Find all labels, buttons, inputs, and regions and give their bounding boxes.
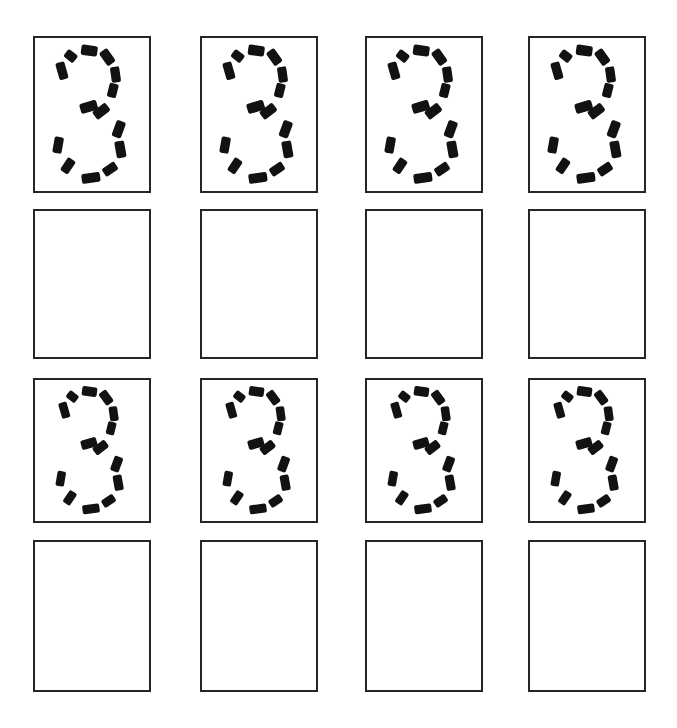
trace-dash-lower-right-a (443, 120, 458, 139)
trace-dash-lower-left-b (62, 490, 77, 506)
trace-dash-upper-right-arc (605, 66, 616, 83)
trace-dash-lower-right-a (111, 120, 126, 139)
trace-dash-bottom-right (268, 494, 284, 509)
trace-dash-upper-right-arc (275, 406, 286, 422)
practice-box-r3-c3[interactable] (365, 378, 483, 523)
practice-box-r1-c3[interactable] (365, 36, 483, 193)
trace-dash-waist-left (411, 99, 431, 114)
trace-dash-upper-left-arc (550, 61, 564, 80)
trace-dash-waist-left (574, 99, 594, 114)
trace-dash-lower-left-b (229, 490, 244, 506)
trace-dash-lower-left-b (227, 157, 243, 175)
trace-dash-bottom-right (433, 494, 449, 509)
practice-box-r3-c2[interactable] (200, 378, 318, 523)
trace-dash-lower-left-b (555, 157, 571, 175)
trace-dash-waist-right (424, 439, 441, 455)
trace-dash-lower-right-a (442, 455, 456, 473)
trace-dash-upper-left-arc (55, 61, 69, 80)
practice-box-r4-c3[interactable] (365, 540, 483, 692)
trace-dash-top-left-tip (395, 49, 410, 64)
practice-box-r3-c1[interactable] (33, 378, 151, 523)
traced-numeral-svg (202, 380, 316, 521)
practice-box-r2-c1[interactable] (33, 209, 151, 359)
trace-dash-top-left-tip (65, 390, 79, 404)
trace-dash-upper-left-arc (222, 61, 236, 80)
traced-numeral-3 (367, 38, 481, 191)
practice-box-r2-c4[interactable] (528, 209, 646, 359)
traced-numeral-3 (530, 380, 644, 521)
trace-dash-lower-right-b (281, 140, 294, 158)
trace-dash-top-left-tip (63, 49, 78, 64)
trace-dash-lower-left-a (387, 471, 398, 487)
trace-dash-waist-left (247, 437, 265, 451)
trace-dash-mid-right (274, 82, 286, 98)
trace-dash-waist-left (79, 99, 99, 114)
trace-dash-top-right (98, 389, 114, 406)
trace-dash-bottom-center (577, 503, 595, 514)
traced-numeral-svg (35, 38, 149, 191)
practice-box-r4-c2[interactable] (200, 540, 318, 692)
trace-dash-bottom-right (101, 161, 118, 177)
trace-dash-top-center (80, 44, 98, 57)
trace-dash-waist-right (587, 102, 606, 120)
traced-numeral-3 (35, 38, 149, 191)
trace-dash-lower-right-b (444, 474, 456, 491)
trace-dash-waist-right (92, 102, 111, 120)
traced-numeral-svg (530, 380, 644, 521)
trace-dash-lower-right-b (279, 474, 291, 491)
trace-dash-upper-right-arc (108, 406, 119, 422)
traced-numeral-3 (367, 380, 481, 521)
trace-dash-lower-right-a (277, 455, 291, 473)
trace-dash-top-right (265, 389, 281, 406)
trace-dash-upper-left-arc (553, 401, 566, 419)
trace-dash-upper-left-arc (58, 401, 71, 419)
trace-dash-lower-left-b (392, 157, 408, 175)
trace-dash-lower-right-b (607, 474, 619, 491)
trace-dash-bottom-right (596, 494, 612, 509)
trace-dash-lower-left-a (219, 136, 231, 154)
trace-dash-waist-left (575, 437, 593, 451)
trace-dash-bottom-center (81, 172, 101, 184)
traced-numeral-svg (35, 380, 149, 521)
trace-dash-lower-left-b (60, 157, 76, 175)
trace-dash-top-center (412, 44, 430, 57)
traced-numeral-3 (202, 38, 316, 191)
practice-box-r3-c4[interactable] (528, 378, 646, 523)
tracing-worksheet (0, 0, 677, 728)
trace-dash-top-right (99, 48, 116, 67)
trace-dash-lower-left-a (52, 136, 64, 154)
trace-dash-lower-left-b (394, 490, 409, 506)
trace-dash-waist-right (424, 102, 443, 120)
trace-dash-top-center (81, 386, 97, 398)
practice-box-r4-c4[interactable] (528, 540, 646, 692)
trace-dash-waist-left (412, 437, 430, 451)
trace-dash-mid-right (272, 421, 283, 436)
trace-dash-upper-right-arc (603, 406, 614, 422)
trace-dash-bottom-center (414, 503, 432, 514)
trace-dash-lower-right-b (112, 474, 124, 491)
practice-box-r4-c1[interactable] (33, 540, 151, 692)
practice-box-r1-c4[interactable] (528, 36, 646, 193)
practice-box-r2-c3[interactable] (365, 209, 483, 359)
trace-dash-upper-right-arc (277, 66, 288, 83)
trace-dash-top-right (266, 48, 283, 67)
trace-dash-bottom-right (268, 161, 285, 177)
practice-box-r1-c2[interactable] (200, 36, 318, 193)
practice-box-r2-c2[interactable] (200, 209, 318, 359)
trace-dash-upper-left-arc (387, 61, 401, 80)
trace-dash-lower-right-a (606, 120, 621, 139)
trace-dash-top-left-tip (230, 49, 245, 64)
practice-box-r1-c1[interactable] (33, 36, 151, 193)
trace-dash-mid-right (600, 421, 611, 436)
trace-dash-mid-right (105, 421, 116, 436)
trace-dash-lower-left-b (557, 490, 572, 506)
trace-dash-mid-right (107, 82, 119, 98)
trace-dash-upper-right-arc (442, 66, 453, 83)
trace-dash-top-right (593, 389, 609, 406)
traced-numeral-svg (367, 380, 481, 521)
trace-dash-bottom-center (248, 172, 268, 184)
traced-numeral-3 (202, 380, 316, 521)
trace-dash-waist-right (259, 102, 278, 120)
trace-dash-lower-left-a (550, 471, 561, 487)
trace-dash-top-left-tip (560, 390, 574, 404)
